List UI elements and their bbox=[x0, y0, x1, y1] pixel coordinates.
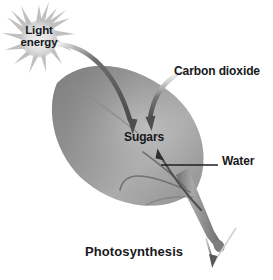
label-carbon-dioxide: Carbon dioxide bbox=[174, 65, 260, 78]
label-sugars: Sugars bbox=[124, 131, 164, 144]
label-light-energy-line2: energy bbox=[14, 36, 64, 48]
label-light-energy-line1: Light bbox=[14, 24, 64, 36]
label-light-energy: Light energy bbox=[14, 24, 64, 49]
figure-caption: Photosynthesis bbox=[85, 245, 183, 259]
photosynthesis-diagram: Light energy Carbon dioxide Sugars Water… bbox=[0, 0, 273, 280]
label-water: Water bbox=[222, 155, 254, 168]
leaf-stem bbox=[176, 168, 227, 254]
